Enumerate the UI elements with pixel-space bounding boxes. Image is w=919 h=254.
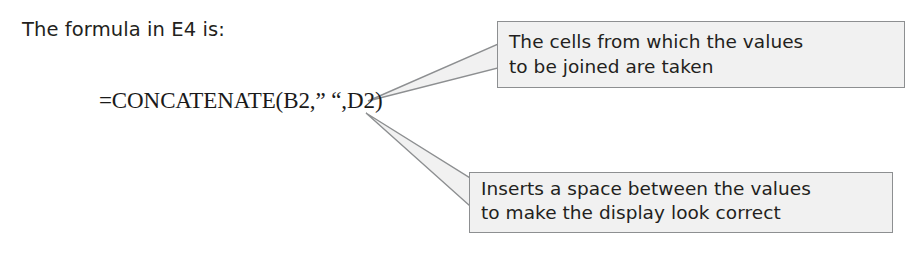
cells-source-callout: The cells from which the values to be jo… xyxy=(497,21,905,88)
bottom-callout-pointer xyxy=(366,113,470,206)
space-separator-callout-line-1: Inserts a space between the values xyxy=(481,177,882,201)
cells-source-callout-line-2: to be joined are taken xyxy=(509,54,894,79)
formula-expression: =CONCATENATE(B2,” “,D2) xyxy=(99,88,382,114)
intro-text: The formula in E4 is: xyxy=(22,18,225,41)
cells-source-callout-line-1: The cells from which the values xyxy=(509,29,894,54)
space-separator-callout: Inserts a space between the values to ma… xyxy=(469,172,893,233)
slide-canvas: The formula in E4 is: =CONCATENATE(B2,” … xyxy=(0,0,919,254)
top-callout-pointer xyxy=(368,44,498,101)
space-separator-callout-line-2: to make the display look correct xyxy=(481,201,882,225)
